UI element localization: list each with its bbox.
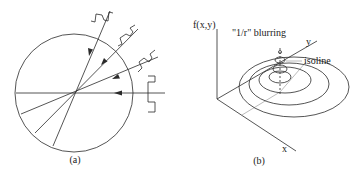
projection-profile-22deg [138,50,155,72]
ray-22deg [21,57,158,114]
panel-a [15,11,165,152]
arrowhead-icon [101,58,108,65]
arrowhead-icon [88,48,93,56]
panel-b-caption: (b) [253,155,265,167]
axis-y-label: y [306,36,311,47]
projection-profile-45deg [118,25,135,46]
panel-a-caption: (a) [69,154,80,166]
figure-canvas: (a) f(x,y) "1/r" blurring y isoline x (b… [0,0,351,180]
blur-label: "1/r" blurring [232,27,286,38]
projection-profile-70deg [91,12,113,22]
panel-b [217,29,349,151]
ray-70deg [53,11,110,146]
axis-x-label: x [282,143,287,154]
axis-z-label: f(x,y) [193,19,216,31]
isoline-ring-2 [249,63,329,105]
projection-profile-0deg [148,76,155,112]
faint-guide [280,62,306,92]
ray-45deg [35,29,138,133]
isoline-label: isoline [304,55,331,66]
isoline-ring-3 [259,67,311,93]
arrowhead-icon [114,91,122,96]
isoline-ring-1 [239,57,349,117]
